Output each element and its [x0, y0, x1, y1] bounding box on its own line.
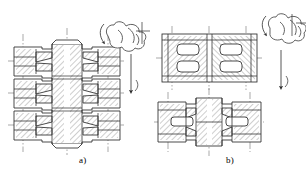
figure-b-top-hatch-left — [164, 36, 207, 80]
figure-a-hatch-hub-right — [70, 45, 81, 143]
figure-b-top-hatch-right — [212, 36, 255, 80]
figure-a-web-lb-1 — [36, 63, 52, 71]
figure-a-web-rb-2 — [83, 95, 98, 103]
figure-a-hatch-hub-left — [53, 45, 64, 143]
figure-a-web-rb-3 — [83, 127, 98, 135]
figure-b-label: b) — [226, 155, 234, 165]
figure-b-front-body — [158, 98, 261, 146]
figure-a-hatch-left-2 — [16, 81, 34, 106]
figure-a-hatch-right-1 — [100, 49, 118, 74]
figure-a-hatch-left-3 — [16, 113, 34, 138]
figure-a-body — [14, 40, 120, 148]
technical-drawing-sheet: a) — [0, 0, 306, 185]
figure-b-cavity-1 — [177, 44, 199, 55]
figure-a-hatch-right-3 — [100, 113, 118, 138]
figure-a-label: a) — [79, 155, 86, 165]
figure-a-hub-bottom-chamfer — [52, 144, 82, 148]
figure-b-front-bore-left — [171, 117, 193, 126]
figure-a-web-lb-2 — [36, 95, 52, 103]
figure-b-cavity-3 — [220, 44, 242, 55]
figure-b-front-bore-right — [226, 117, 248, 126]
figure-a-hub-top-chamfer — [52, 40, 82, 44]
figure-a-web-rb-1 — [83, 63, 98, 71]
figure-b-cavity-4 — [220, 61, 242, 72]
figure-a-web-lb-3 — [36, 127, 52, 135]
figure-b-top-view — [156, 26, 262, 90]
figure-a-hatch-left-1 — [16, 49, 34, 74]
figure-a-hatch-right-2 — [100, 81, 118, 106]
figure-b-cavity-2 — [177, 61, 199, 72]
figure-b-top-body — [162, 34, 257, 82]
